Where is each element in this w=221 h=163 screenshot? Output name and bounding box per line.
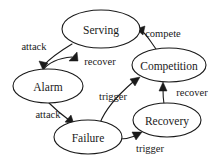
edge-label-serving-alarm: attack	[21, 41, 47, 52]
edge-alarm-serving: recover	[42, 52, 116, 71]
node-failure[interactable]: Failure	[54, 120, 122, 154]
edge-failure-competition-path	[100, 82, 133, 123]
node-competition-label: Competition	[140, 60, 198, 73]
node-serving-label: Serving	[83, 24, 119, 37]
edge-failure-competition-arrowhead	[130, 77, 140, 86]
graph-canvas: attack recover compete attack trigger	[0, 0, 221, 163]
edge-alarm-failure: attack	[35, 103, 74, 124]
edge-label-alarm-serving: recover	[84, 56, 116, 67]
node-alarm-label: Alarm	[33, 81, 62, 93]
edge-label-alarm-failure: attack	[35, 109, 61, 120]
edge-label-failure-recovery: trigger	[136, 143, 164, 154]
edge-label-competition-serving: compete	[145, 28, 181, 39]
edge-label-recovery-competition: recover	[176, 87, 208, 98]
edge-recovery-competition-arrowhead	[159, 82, 167, 91]
node-failure-label: Failure	[72, 132, 105, 144]
node-recovery-label: Recovery	[145, 115, 189, 128]
node-recovery[interactable]: Recovery	[133, 103, 201, 137]
node-serving[interactable]: Serving	[62, 10, 140, 48]
edge-competition-serving: compete	[136, 26, 181, 49]
node-competition[interactable]: Competition	[132, 48, 206, 82]
edge-recovery-competition: recover	[159, 82, 208, 104]
state-transition-diagram: attack recover compete attack trigger	[0, 0, 221, 163]
node-alarm[interactable]: Alarm	[13, 69, 83, 103]
edge-alarm-serving-arrowhead	[69, 52, 78, 61]
edge-label-failure-competition: trigger	[99, 91, 127, 102]
